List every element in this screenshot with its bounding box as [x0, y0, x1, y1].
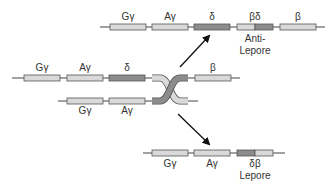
label-delta: δ [209, 11, 215, 22]
gene-g-gamma [67, 98, 103, 104]
label-a-gamma: Aγ [121, 105, 133, 116]
caption-lepore: Lepore [239, 170, 271, 181]
gene-beta-delta-beta-part [237, 24, 255, 30]
gene-g-gamma [110, 24, 146, 30]
gene-g-gamma [24, 75, 60, 81]
arrow-icon [178, 114, 209, 144]
label-delta: δ [124, 62, 130, 73]
label-a-gamma: Aγ [164, 11, 176, 22]
gene-a-gamma [152, 24, 188, 30]
label-g-gamma: Gγ [122, 11, 135, 22]
label-beta-delta: βδ [249, 11, 261, 22]
gene-beta [195, 75, 231, 81]
unequal-crossing-over-icon [152, 78, 188, 101]
arrow-icon [180, 36, 209, 67]
gene-delta-beta-beta-part [255, 150, 273, 156]
gene-beta [280, 24, 316, 30]
upper-parental-chromosome: Gγ Aγ δ β [12, 62, 240, 81]
gene-beta-delta-delta-part [255, 24, 273, 30]
lepore-chromosome: Gγ Aγ δβ Lepore [143, 150, 285, 181]
label-beta: β [210, 62, 216, 73]
label-g-gamma: Gγ [164, 158, 177, 169]
unequal-crossover-diagram: Gγ Aγ δ βδ β Anti- Lepore Gγ Aγ δ β Gγ A… [0, 0, 335, 188]
label-a-gamma: Aγ [206, 158, 218, 169]
label-g-gamma: Gγ [79, 105, 92, 116]
gene-a-gamma [109, 98, 145, 104]
label-delta-beta: δβ [249, 158, 261, 169]
anti-lepore-chromosome: Gγ Aγ δ βδ β Anti- Lepore [100, 11, 325, 56]
gene-a-gamma [67, 75, 103, 81]
gene-delta-beta-delta-part [237, 150, 255, 156]
label-a-gamma: Aγ [79, 62, 91, 73]
label-beta: β [295, 11, 301, 22]
caption-lepore: Lepore [239, 45, 271, 56]
gene-delta [109, 75, 145, 81]
gene-g-gamma [152, 150, 188, 156]
gene-a-gamma [194, 150, 230, 156]
label-g-gamma: Gγ [36, 62, 49, 73]
gene-delta [194, 24, 230, 30]
caption-anti: Anti- [245, 33, 266, 44]
